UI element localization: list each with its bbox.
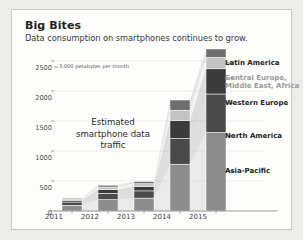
ytick-label-2500: 2500 xyxy=(18,64,52,72)
legend-item-latin-america: Latin America xyxy=(225,59,280,68)
ytick-label-2000: 2000 xyxy=(18,94,52,102)
ytick-label-1500: 1500 xyxy=(18,124,52,132)
xtick-label-2012: 2012 xyxy=(72,213,108,221)
xtick-label-2015: 2015 xyxy=(180,213,216,221)
callout-line-3: traffic xyxy=(54,140,172,152)
unit-annotation: 3,000 petabytes per month xyxy=(59,63,129,69)
legend-item-cemea-line2: Middle East, Africa xyxy=(225,82,299,91)
estimate-callout: Estimated smartphone data traffic xyxy=(54,117,172,152)
chart-screenshot: Big Bites Data consumption on smartphone… xyxy=(0,0,303,240)
legend-item-north-america: North America xyxy=(225,132,282,141)
legend-item-western-europe: Western Europe xyxy=(225,99,288,108)
ytick-label-1000: 1000 xyxy=(18,154,52,162)
legend-item-asia-pacific: Asia-Pacific xyxy=(225,167,270,176)
xtick-label-2013: 2013 xyxy=(108,213,144,221)
chart-card: Big Bites Data consumption on smartphone… xyxy=(11,9,292,230)
xtick-label-2014: 2014 xyxy=(144,213,180,221)
xtick-label-2011: 2011 xyxy=(36,213,72,221)
ytick-label-500: 500 xyxy=(18,184,52,192)
callout-line-1: Estimated xyxy=(54,117,172,129)
callout-line-2: smartphone data xyxy=(54,129,172,141)
